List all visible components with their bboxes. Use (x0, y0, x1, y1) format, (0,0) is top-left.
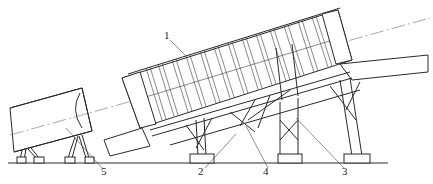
detached-cylinder-section (10, 88, 94, 163)
callout-label-2: 2 (198, 166, 204, 177)
callout-label-1: 1 (164, 30, 170, 41)
callout-label-5: 5 (101, 166, 107, 177)
main-drum (122, 8, 352, 128)
callout-label-3: 3 (342, 166, 348, 177)
drum-assembly-diagram: 1 2 4 3 5 (0, 0, 433, 184)
diagram-drawing (0, 0, 433, 184)
outlet-tube (340, 55, 428, 80)
inlet-chute (104, 128, 150, 156)
callout-label-4: 4 (263, 166, 269, 177)
